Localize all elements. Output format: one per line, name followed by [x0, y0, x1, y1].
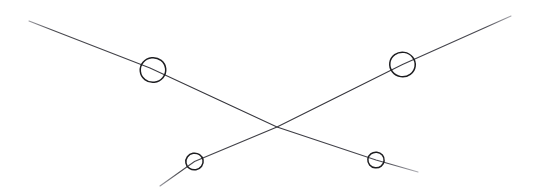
sketch-drawing [0, 0, 537, 190]
ascending-line [160, 16, 511, 186]
sketch-canvas [0, 0, 537, 190]
